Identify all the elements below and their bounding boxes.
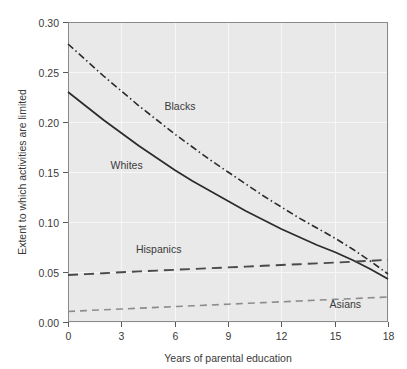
x-tick-label: 18 [383, 330, 395, 342]
y-tick-label: 0.20 [39, 117, 60, 129]
x-tick-label: 6 [173, 330, 179, 342]
series-label-blacks: Blacks [165, 100, 196, 112]
x-tick-label: 3 [119, 330, 125, 342]
x-tick-label: 12 [276, 330, 288, 342]
y-axis-title: Extent to which activities are limited [16, 89, 28, 255]
y-tick-label: 0.05 [39, 267, 60, 279]
y-tick-label: 0.00 [39, 317, 60, 329]
chart-figure: 0369121518 0.000.050.100.150.200.250.30 … [0, 0, 407, 369]
y-tick-label: 0.10 [39, 217, 60, 229]
x-tick-label: 0 [66, 330, 72, 342]
x-tick-label: 9 [226, 330, 232, 342]
y-tick-label: 0.25 [39, 67, 60, 79]
y-tick-label: 0.15 [39, 167, 60, 179]
series-label-asians: Asians [330, 298, 362, 310]
series-label-whites: Whites [111, 159, 143, 171]
line-chart: 0369121518 0.000.050.100.150.200.250.30 … [0, 0, 407, 369]
y-axis-ticks: 0.000.050.100.150.200.250.30 [39, 17, 68, 329]
x-tick-label: 15 [330, 330, 342, 342]
x-axis-title: Years of parental education [164, 352, 292, 364]
series-label-hispanics: Hispanics [136, 243, 182, 255]
y-tick-label: 0.30 [39, 17, 60, 29]
x-axis-ticks: 0369121518 [66, 322, 395, 342]
